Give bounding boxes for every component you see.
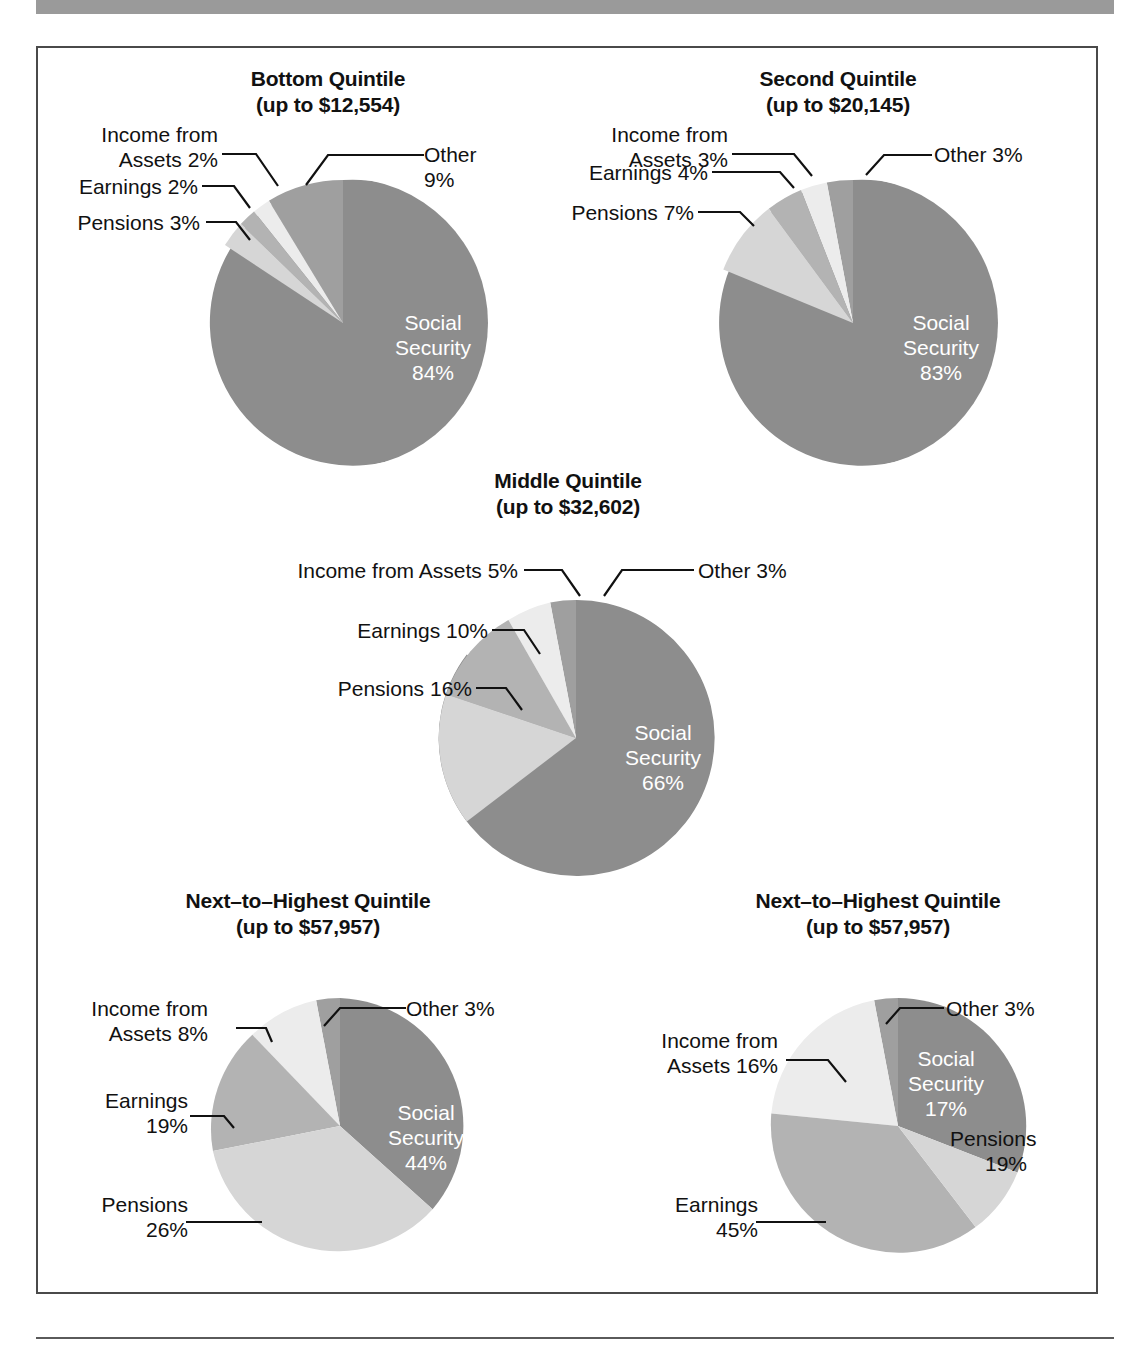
ss-label-value: 83% — [876, 360, 1006, 385]
ss-label-value: 44% — [364, 1150, 488, 1175]
ss-label-value: 17% — [886, 1096, 1006, 1121]
ss-label-line2: Security — [364, 1125, 488, 1150]
label-pensions-second: Pensions 7% — [528, 200, 694, 225]
other-label-value: 9% — [424, 167, 477, 192]
chart-subtitle-line2: (up to $12,554) — [168, 92, 488, 118]
pensions-label-line1: Pensions — [18, 1192, 188, 1217]
leader-other-middle — [590, 560, 700, 610]
assets-label-line1: Income from — [18, 996, 208, 1021]
pensions-label-value: 19% — [985, 1152, 1027, 1175]
chart-title-line1: Middle Quintile — [494, 469, 642, 492]
assets-label-line2: Assets 16% — [588, 1053, 778, 1078]
label-pensions-nth-right: Pensions 19% — [950, 1126, 1090, 1176]
label-pensions-bottom: Pensions 3% — [18, 210, 200, 235]
label-assets-bottom: Income from Assets 2% — [18, 122, 218, 172]
ss-label-line1: Social — [886, 1046, 1006, 1071]
ss-label-line1: Social — [368, 310, 498, 335]
inside-label-social-security-nth-right: Social Security 17% — [886, 1046, 1006, 1121]
other-label-line1: Other — [424, 142, 477, 167]
earnings-label-line1: Earnings — [18, 1088, 188, 1113]
chart-subtitle-line2: (up to $20,145) — [678, 92, 998, 118]
label-earnings-nth-left: Earnings 19% — [18, 1088, 188, 1138]
chart-title-line1: Next–to–Highest Quintile — [756, 889, 1001, 912]
earnings-label-line1: Earnings — [588, 1192, 758, 1217]
leader-assets-nth-right — [784, 1050, 858, 1088]
leader-pensions-middle — [474, 678, 544, 726]
top-banner-bar — [36, 0, 1114, 14]
leader-earnings-second — [710, 164, 806, 208]
pie-chart-next-to-highest-left: Next–to–Highest Quintile (up to $57,957)… — [38, 878, 568, 1298]
label-assets-nth-right: Income from Assets 16% — [588, 1028, 778, 1078]
chart-title-line1: Bottom Quintile — [251, 67, 405, 90]
ss-label-value: 84% — [368, 360, 498, 385]
inside-label-social-security-bottom: Social Security 84% — [368, 310, 498, 385]
leader-earnings-nth-left — [188, 1106, 250, 1138]
leader-assets-nth-left — [234, 1018, 294, 1050]
assets-label-line1: Income from — [588, 1028, 778, 1053]
ss-label-value: 66% — [598, 770, 728, 795]
leader-earnings-nth-right — [754, 1212, 834, 1236]
label-other-nth-left: Other 3% — [406, 996, 495, 1021]
earnings-label-line2: 45% — [588, 1217, 758, 1242]
label-earnings-bottom: Earnings 2% — [18, 174, 198, 199]
leader-pensions-second — [696, 204, 776, 244]
label-earnings-second: Earnings 4% — [528, 160, 708, 185]
label-assets-middle: Income from Assets 5% — [188, 558, 518, 583]
leader-pensions-nth-left — [184, 1212, 270, 1236]
assets-label-line2: Assets 2% — [18, 147, 218, 172]
label-pensions-nth-left: Pensions 26% — [18, 1192, 188, 1242]
label-pensions-middle: Pensions 16% — [218, 676, 472, 701]
inside-label-social-security-nth-left: Social Security 44% — [364, 1100, 488, 1175]
label-assets-nth-left: Income from Assets 8% — [18, 996, 208, 1046]
leader-other-bottom — [288, 143, 428, 213]
ss-label-line2: Security — [368, 335, 498, 360]
footer-rule — [36, 1337, 1114, 1339]
assets-label-line1: Income from — [18, 122, 218, 147]
leader-pensions-bottom — [204, 214, 274, 260]
chart-subtitle-line2: (up to $57,957) — [678, 914, 1078, 940]
leader-other-second — [856, 143, 936, 191]
label-earnings-middle: Earnings 10% — [238, 618, 488, 643]
pie-chart-next-to-highest-right: Next–to–Highest Quintile (up to $57,957)… — [568, 878, 1098, 1298]
chart-subtitle-line2: (up to $32,602) — [408, 494, 728, 520]
leader-other-nth-left — [316, 998, 412, 1040]
chart-title-next-to-highest-left: Next–to–Highest Quintile (up to $57,957) — [108, 888, 508, 940]
leader-assets-middle — [522, 560, 592, 610]
assets-label-line1: Income from — [528, 122, 728, 147]
label-earnings-nth-right: Earnings 45% — [588, 1192, 758, 1242]
pie-chart-second-quintile: Second Quintile (up to $20,145) Social S… — [568, 48, 1098, 468]
pie-chart-bottom-quintile: Bottom Quintile (up to $12,554) Social S… — [38, 48, 568, 468]
pensions-label-line2: 19% — [950, 1151, 1062, 1176]
pie-chart-middle-quintile: Middle Quintile (up to $32,602) Social S… — [38, 458, 1096, 878]
ss-label-line1: Social — [364, 1100, 488, 1125]
earnings-label-line2: 19% — [18, 1113, 188, 1138]
chart-title-next-to-highest-right: Next–to–Highest Quintile (up to $57,957) — [678, 888, 1078, 940]
pensions-label-line2: 26% — [18, 1217, 188, 1242]
leader-earnings-middle — [490, 620, 560, 670]
inside-label-social-security-second: Social Security 83% — [876, 310, 1006, 385]
ss-label-line2: Security — [598, 745, 728, 770]
chart-subtitle-line2: (up to $57,957) — [108, 914, 508, 940]
chart-title-bottom-quintile: Bottom Quintile (up to $12,554) — [168, 66, 488, 118]
inside-label-social-security-middle: Social Security 66% — [598, 720, 728, 795]
label-other-nth-right: Other 3% — [946, 996, 1035, 1021]
ss-label-line2: Security — [876, 335, 1006, 360]
chart-title-second-quintile: Second Quintile (up to $20,145) — [678, 66, 998, 118]
label-other-middle: Other 3% — [698, 558, 787, 583]
label-other-second: Other 3% — [934, 142, 1023, 167]
ss-label-line1: Social — [876, 310, 1006, 335]
label-other-bottom: Other 9% — [424, 142, 477, 192]
ss-label-line2: Security — [886, 1071, 1006, 1096]
chart-title-line1: Next–to–Highest Quintile — [186, 889, 431, 912]
chart-title-line1: Second Quintile — [760, 67, 917, 90]
chart-title-middle-quintile: Middle Quintile (up to $32,602) — [408, 468, 728, 520]
pensions-label-line1: Pensions — [950, 1126, 1090, 1151]
chart-frame: Bottom Quintile (up to $12,554) Social S… — [36, 46, 1098, 1294]
leader-other-nth-right — [878, 998, 952, 1038]
assets-label-line2: Assets 8% — [18, 1021, 208, 1046]
ss-label-line1: Social — [598, 720, 728, 745]
